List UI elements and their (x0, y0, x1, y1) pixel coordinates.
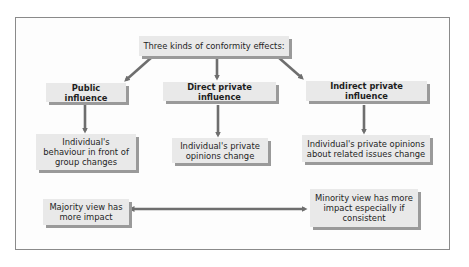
indirect-private-influence-label: Indirect private influence (310, 81, 423, 101)
majority-box: Majority view has more impact (43, 199, 129, 225)
public-outcome-text: Individual's behaviour in front of group… (40, 137, 132, 167)
public-outcome-box: Individual's behaviour in front of group… (36, 134, 136, 170)
arrow-root-to-public (126, 57, 152, 80)
majority-text: Majority view has more impact (47, 202, 125, 222)
indirect-private-influence-box: Indirect private influence (306, 81, 427, 101)
public-influence-box: Public influence (46, 83, 126, 102)
direct-outcome-box: Individual's private opinions change (172, 138, 268, 163)
minority-box: Minority view has more impact especially… (310, 189, 418, 227)
arrow-root-to-indirect (278, 57, 302, 78)
direct-outcome-text: Individual's private opinions change (176, 141, 264, 161)
indirect-outcome-text: Individual's private opinions about rela… (306, 139, 426, 159)
root-box: Three kinds of conformity effects: (139, 36, 289, 56)
direct-private-influence-label: Direct private influence (167, 82, 272, 102)
public-influence-label: Public influence (50, 83, 122, 103)
direct-private-influence-box: Direct private influence (163, 82, 276, 101)
indirect-outcome-box: Individual's private opinions about rela… (302, 135, 430, 162)
minority-text: Minority view has more impact especially… (314, 193, 414, 223)
root-label: Three kinds of conformity effects: (143, 41, 284, 51)
